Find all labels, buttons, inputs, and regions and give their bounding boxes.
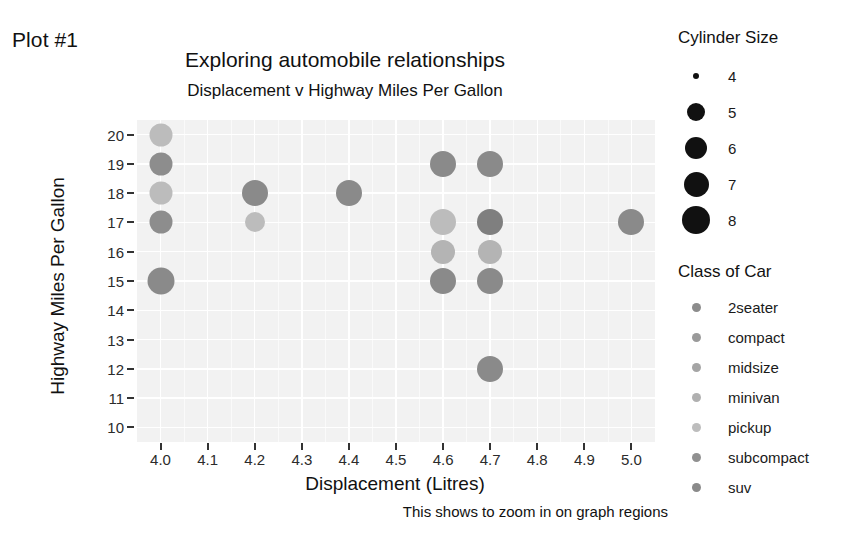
circle-icon	[684, 172, 709, 197]
legend-size-item[interactable]: 5	[678, 94, 778, 130]
x-axis-tick-mark	[536, 443, 538, 450]
legend-size-swatch	[678, 137, 714, 159]
y-axis-tick-mark	[127, 134, 134, 136]
legend-class-swatch	[678, 393, 714, 402]
gridline-vertical	[348, 120, 349, 442]
y-axis-tick-label: 14	[107, 302, 124, 319]
legend-class-item[interactable]: midsize	[678, 352, 809, 382]
data-point[interactable]	[477, 268, 503, 294]
y-axis-tick-mark	[127, 368, 134, 370]
legend-size-item[interactable]: 7	[678, 166, 778, 202]
y-axis-tick-label: 12	[107, 360, 124, 377]
data-point[interactable]	[147, 268, 174, 295]
gridline-vertical	[207, 120, 208, 442]
x-axis-tick-mark	[254, 443, 256, 450]
legend-size-item[interactable]: 4	[678, 58, 778, 94]
legend-class-label: pickup	[728, 419, 771, 436]
legend-class-item[interactable]: 2seater	[678, 292, 809, 322]
data-point[interactable]	[430, 209, 456, 235]
legend-size-label: 5	[728, 104, 736, 121]
data-point[interactable]	[477, 209, 503, 235]
legend-class-label: 2seater	[728, 299, 778, 316]
data-point[interactable]	[149, 123, 172, 146]
x-axis-tick-label: 5.0	[621, 451, 642, 468]
legend-size-item[interactable]: 8	[678, 202, 778, 238]
x-axis-tick-label: 4.8	[527, 451, 548, 468]
legend-class-label: minivan	[728, 389, 780, 406]
data-point[interactable]	[618, 209, 644, 235]
x-axis-tick-label: 4.5	[386, 451, 407, 468]
legend-size-swatch	[678, 206, 714, 234]
legend-class-of-car-title: Class of Car	[678, 262, 809, 282]
y-axis-tick-mark	[127, 163, 134, 165]
legend-cylinder-size-rows: 45678	[678, 58, 778, 238]
x-axis-tick-mark	[583, 443, 585, 450]
legend-class-item[interactable]: suv	[678, 472, 809, 502]
chart-title: Exploring automobile relationships	[130, 48, 560, 72]
data-point[interactable]	[430, 268, 456, 294]
x-axis-tick-label: 4.0	[150, 451, 171, 468]
legend-cylinder-size-title: Cylinder Size	[678, 28, 778, 48]
legend-class-of-car: Class of Car 2seatercompactmidsizeminiva…	[678, 262, 809, 502]
data-point[interactable]	[477, 356, 503, 382]
legend-size-swatch	[678, 172, 714, 197]
data-point[interactable]	[431, 240, 455, 264]
legend-size-item[interactable]: 6	[678, 130, 778, 166]
gridline-vertical-minor	[560, 120, 561, 442]
legend-size-label: 7	[728, 176, 736, 193]
legend-class-label: subcompact	[728, 449, 809, 466]
data-point[interactable]	[149, 152, 172, 175]
circle-icon	[693, 73, 699, 79]
plot-panel	[137, 120, 655, 442]
data-point[interactable]	[430, 151, 456, 177]
circle-icon	[685, 137, 707, 159]
data-point[interactable]	[477, 151, 503, 177]
x-axis-tick-mark	[489, 443, 491, 450]
y-axis-tick-mark	[127, 309, 134, 311]
y-axis-tick-label: 13	[107, 331, 124, 348]
data-point[interactable]	[242, 180, 268, 206]
y-axis-tick-label: 10	[107, 419, 124, 436]
gridline-vertical-minor	[513, 120, 514, 442]
legend-class-swatch	[678, 303, 714, 312]
chart-subtitle: Displacement v Highway Miles Per Gallon	[130, 81, 560, 101]
legend-class-of-car-rows: 2seatercompactmidsizeminivanpickupsubcom…	[678, 292, 809, 502]
gridline-vertical	[395, 120, 396, 442]
circle-icon	[692, 483, 701, 492]
data-point[interactable]	[149, 182, 172, 205]
legend-class-item[interactable]: minivan	[678, 382, 809, 412]
legend-class-item[interactable]: pickup	[678, 412, 809, 442]
y-axis-tick-mark	[127, 397, 134, 399]
gridline-vertical-minor	[231, 120, 232, 442]
gridline-vertical	[254, 120, 255, 442]
x-axis-tick-label: 4.1	[197, 451, 218, 468]
data-point[interactable]	[336, 180, 362, 206]
circle-icon	[692, 333, 701, 342]
x-axis-tick-mark	[301, 443, 303, 450]
x-axis-tick-mark	[160, 443, 162, 450]
x-axis-tick-mark	[395, 443, 397, 450]
gridline-vertical	[537, 120, 538, 442]
y-axis-tick-label: 20	[107, 126, 124, 143]
x-axis-tick-label: 4.7	[480, 451, 501, 468]
y-axis-tick-label: 11	[108, 390, 124, 407]
legend-class-item[interactable]: compact	[678, 322, 809, 352]
data-point[interactable]	[245, 212, 265, 232]
x-axis-tick-label: 4.3	[291, 451, 312, 468]
gridline-vertical-minor	[608, 120, 609, 442]
legend-size-swatch	[678, 73, 714, 79]
legend-class-item[interactable]: subcompact	[678, 442, 809, 472]
legend-size-swatch	[678, 103, 714, 121]
x-axis-tick-mark	[348, 443, 350, 450]
data-point[interactable]	[149, 211, 172, 234]
x-axis-tick-label: 4.6	[433, 451, 454, 468]
circle-icon	[692, 393, 701, 402]
y-axis-tick-mark	[127, 280, 134, 282]
y-axis-tick-mark	[127, 221, 134, 223]
y-axis-tick-label: 16	[107, 243, 124, 260]
data-point[interactable]	[478, 240, 502, 264]
legend-class-swatch	[678, 483, 714, 492]
gridline-vertical	[301, 120, 302, 442]
legend-class-swatch	[678, 453, 714, 462]
gridline-vertical	[584, 120, 585, 442]
